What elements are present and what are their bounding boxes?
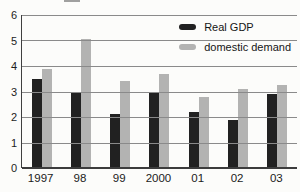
gridline-y1 <box>22 143 297 144</box>
x-tick-label-98: 98 <box>60 172 99 184</box>
x-tick-label-2000: 2000 <box>139 172 178 184</box>
y-tick-label: 4 <box>2 60 17 72</box>
legend-swatch-icon <box>179 44 196 50</box>
y-tick-label: 1 <box>2 137 17 149</box>
x-tick-label-99: 99 <box>100 172 139 184</box>
bar-real-gdp-99 <box>110 114 120 168</box>
legend-label: Real GDP <box>204 21 254 33</box>
bar-domestic-demand-02 <box>238 89 248 168</box>
bar-real-gdp-03 <box>267 94 277 168</box>
x-tick-label-1997: 1997 <box>21 172 60 184</box>
gridline-y0 <box>22 167 297 169</box>
gridline-y6 <box>22 15 297 16</box>
y-tick-label: 2 <box>2 111 17 123</box>
legend-entry-domestic-demand: domestic demand <box>179 41 291 53</box>
x-tick-label-02: 02 <box>217 172 256 184</box>
legend-swatch-icon <box>179 24 196 30</box>
legend-label: domestic demand <box>204 41 291 53</box>
x-tick-label-03: 03 <box>257 172 296 184</box>
bar-domestic-demand-1997 <box>42 69 52 168</box>
x-axis-labels: 199798992000010203 <box>21 172 296 184</box>
y-tick-label: 6 <box>2 9 17 21</box>
bar-domestic-demand-2000 <box>159 74 169 168</box>
cropped-title-artifact <box>64 0 80 2</box>
bar-domestic-demand-01 <box>199 97 209 168</box>
y-tick-label: 5 <box>2 35 17 47</box>
y-tick-label: 3 <box>2 86 17 98</box>
gridline-y2 <box>22 117 297 118</box>
bar-real-gdp-2000 <box>149 92 159 169</box>
bar-domestic-demand-03 <box>277 85 287 168</box>
bar-domestic-demand-99 <box>120 81 130 168</box>
legend: Real GDPdomestic demand <box>179 21 291 61</box>
gridline-y3 <box>22 92 297 93</box>
bar-real-gdp-02 <box>228 120 238 168</box>
x-tick-label-01: 01 <box>178 172 217 184</box>
gridline-y4 <box>22 66 297 67</box>
y-tick-label: 0 <box>2 162 17 174</box>
legend-entry-real-gdp: Real GDP <box>179 21 291 33</box>
bar-chart: 199798992000010203 Real GDPdomestic dema… <box>0 0 300 192</box>
bar-real-gdp-98 <box>71 93 81 168</box>
bar-real-gdp-01 <box>189 112 199 168</box>
bar-domestic-demand-98 <box>81 39 91 168</box>
